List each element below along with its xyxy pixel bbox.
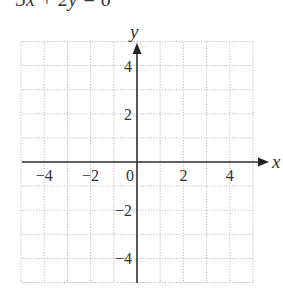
x-tick-label: 2 (179, 167, 187, 184)
axes (22, 43, 269, 283)
x-tick-label: −2 (82, 167, 99, 184)
y-tick-label: −2 (115, 202, 132, 219)
x-tick-label: −4 (36, 167, 53, 184)
coordinate-grid: x y −4−2024−4−224 (0, 0, 283, 304)
y-tick-label: 4 (124, 58, 132, 75)
x-tick-label: 0 (126, 167, 134, 184)
y-tick-label: −4 (115, 250, 132, 267)
x-tick-label: 4 (226, 167, 234, 184)
y-axis-arrow-icon (133, 43, 142, 54)
x-axis-arrow-icon (258, 158, 269, 167)
x-axis-label: x (271, 151, 281, 172)
y-tick-label: 2 (124, 106, 132, 123)
y-axis-label: y (128, 21, 139, 42)
